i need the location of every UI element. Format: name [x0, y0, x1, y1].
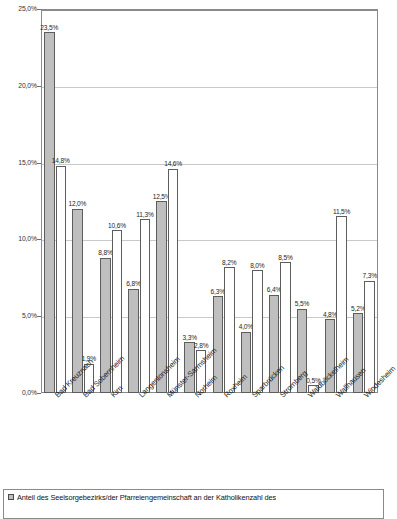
- bar-group: 8,8%10,6%: [97, 9, 125, 393]
- bar-value-label: 12,0%: [62, 200, 92, 207]
- bar-value-label: 23,5%: [34, 24, 64, 31]
- legend-swatch-icon: [8, 494, 14, 500]
- bar-group: 3,3%2,8%: [181, 9, 209, 393]
- legend-label: Anteil des Seelsorgebezirks/der Pfarreie…: [17, 493, 276, 502]
- x-axis-labels: Bad KreuznachBad SobernheimKirnLangenlon…: [41, 393, 378, 483]
- y-axis-tick-label: 5,0%: [0, 312, 37, 319]
- bar: [44, 32, 55, 393]
- y-axis-tick-label: 20,0%: [0, 82, 37, 89]
- bar-group: 4,8%11,5%: [322, 9, 350, 393]
- legend-entry: Anteil des Seelsorgebezirks/der Pfarreie…: [8, 493, 380, 502]
- y-axis-tick-label: 10,0%: [0, 235, 37, 242]
- bar-group: 6,3%8,2%: [210, 9, 238, 393]
- bar-group: 6,4%8,5%: [266, 9, 294, 393]
- bar-group: 6,8%11,3%: [125, 9, 153, 393]
- legend: Anteil des Seelsorgebezirks/der Pfarreie…: [3, 489, 384, 519]
- bars-layer: 23,5%14,8%12,0%1,9%8,8%10,6%6,8%11,3%12,…: [41, 9, 378, 393]
- bar-group: 4,0%8,0%: [238, 9, 266, 393]
- bar-value-label: 5,5%: [287, 300, 317, 307]
- bar-value-label: 3,3%: [175, 334, 205, 341]
- y-axis-tick-label: 25,0%: [0, 5, 37, 12]
- bar: [140, 219, 151, 393]
- bar-group: 5,5%0,5%: [294, 9, 322, 393]
- y-axis-tick-label: 15,0%: [0, 159, 37, 166]
- y-axis-tick-label: 0,0%: [0, 389, 37, 396]
- bar-value-label: 7,3%: [355, 272, 385, 279]
- bar: [364, 281, 375, 393]
- bar-group: 5,2%7,3%: [350, 9, 378, 393]
- bar-group: 12,0%1,9%: [69, 9, 97, 393]
- bar: [128, 289, 139, 393]
